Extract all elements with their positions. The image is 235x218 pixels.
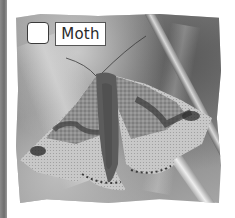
answer-label: Moth (61, 25, 99, 43)
answer-checkbox[interactable] (27, 22, 49, 44)
answer-label-box: Moth (55, 22, 106, 46)
page-edge-strip (0, 0, 7, 218)
